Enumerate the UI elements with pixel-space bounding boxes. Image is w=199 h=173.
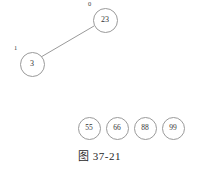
figure-canvas: 0 23 1 3 55 66 88 99 图 37-21 (0, 0, 199, 173)
figure-caption: 图 37-21 (0, 150, 199, 162)
node-index-label-1: 1 (14, 45, 17, 52)
tree-edge-23-to-3 (41, 26, 94, 57)
free-node-88-value: 88 (141, 124, 149, 132)
free-node-99[interactable]: 99 (162, 117, 185, 140)
tree-node-child[interactable]: 3 (20, 52, 45, 77)
node-index-label-0: 0 (88, 1, 91, 8)
tree-node-root-value: 23 (101, 16, 109, 24)
tree-node-root[interactable]: 23 (93, 8, 118, 33)
free-node-99-value: 99 (169, 124, 177, 132)
free-node-55-value: 55 (85, 124, 93, 132)
free-node-66-value: 66 (113, 124, 121, 132)
free-node-55[interactable]: 55 (78, 117, 101, 140)
free-node-66[interactable]: 66 (106, 117, 129, 140)
tree-node-child-value: 3 (30, 60, 34, 68)
free-node-88[interactable]: 88 (134, 117, 157, 140)
